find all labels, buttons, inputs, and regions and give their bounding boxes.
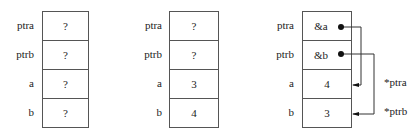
- annotation-ptra-deref: *ptra: [384, 76, 407, 88]
- annotation-ptrb-deref: *ptrb: [384, 105, 407, 117]
- pointer-dot-icon: [338, 51, 344, 57]
- pointer-dot-icon: [338, 24, 344, 30]
- pointer-arrows: [0, 0, 420, 139]
- arrowhead-icon: [352, 112, 359, 116]
- arrow-ptra-to-a: [341, 27, 361, 85]
- arrowhead-icon: [352, 83, 359, 87]
